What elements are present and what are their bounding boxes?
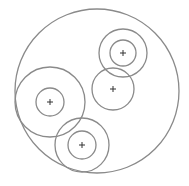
top-right-center-marker xyxy=(120,50,126,56)
left-center-marker xyxy=(47,99,53,105)
bottom-center-marker xyxy=(79,142,85,148)
middle-right-center-marker xyxy=(110,86,116,92)
diagram-canvas xyxy=(0,0,189,186)
outer-boundary-circle xyxy=(15,9,179,173)
